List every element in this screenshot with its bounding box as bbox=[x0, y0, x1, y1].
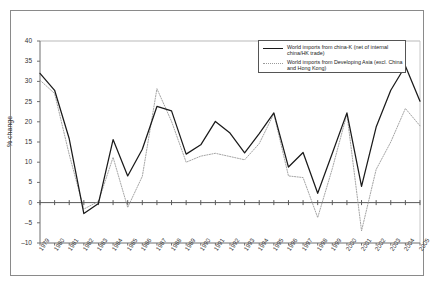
y-tick-label: 5 bbox=[10, 178, 32, 185]
y-tick-label: 30 bbox=[10, 77, 32, 84]
y-tick-label: 20 bbox=[10, 118, 32, 125]
legend-line-dotted-icon bbox=[263, 59, 283, 69]
y-tick-label: –10 bbox=[10, 239, 32, 246]
y-tick-label: 15 bbox=[10, 138, 32, 145]
chart-figure: % change –10–50510152025303540 197919801… bbox=[0, 0, 437, 289]
legend-label-1: World imports from Developing Asia (excl… bbox=[287, 59, 405, 72]
legend-line-solid-icon bbox=[263, 44, 283, 54]
series-line-0 bbox=[40, 66, 420, 213]
y-tick-label: 25 bbox=[10, 98, 32, 105]
y-tick-label: 35 bbox=[10, 57, 32, 64]
legend-entry-0: World imports from china-K (net of inter… bbox=[263, 44, 405, 57]
y-tick-label: 0 bbox=[10, 199, 32, 206]
legend-entry-1: World imports from Developing Asia (excl… bbox=[263, 59, 405, 72]
y-tick-label: 40 bbox=[10, 37, 32, 44]
legend-label-0: World imports from china-K (net of inter… bbox=[287, 44, 405, 57]
series-line-1 bbox=[40, 80, 420, 231]
y-tick-label: 10 bbox=[10, 158, 32, 165]
y-tick-label: –5 bbox=[10, 219, 32, 226]
chart-legend: World imports from china-K (net of inter… bbox=[258, 40, 406, 73]
